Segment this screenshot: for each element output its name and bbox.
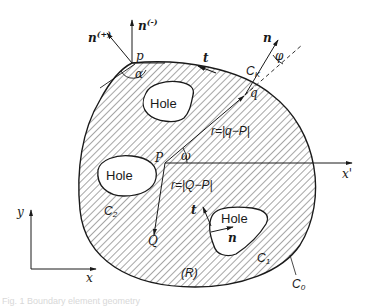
hole-label-c2: Hole: [106, 168, 133, 183]
label-t-top: t: [203, 51, 209, 65]
hole-label-ck: Hole: [150, 96, 177, 111]
label-x-prime: x': [342, 167, 352, 181]
label-c0: C0: [292, 277, 306, 292]
hole-label-c1: Hole: [221, 211, 248, 226]
label-q: q: [250, 86, 258, 100]
label-omega: ω: [181, 149, 191, 163]
label-n-hole: n: [228, 231, 237, 245]
label-n-minus: n(-): [138, 17, 158, 33]
c0-leader: [290, 255, 296, 275]
label-r-Q: r=|Q−P|: [171, 178, 213, 192]
label-phi: φ: [275, 49, 284, 63]
label-ck: CK: [246, 64, 261, 79]
label-x-axis: x: [86, 271, 93, 285]
label-alpha: α: [135, 67, 143, 81]
label-n-q: n: [263, 31, 272, 45]
label-r-q: r=|q−P|: [211, 124, 250, 138]
label-y-axis: y: [16, 205, 24, 219]
label-region-r: (R): [181, 266, 198, 280]
figure-caption: Fig. 1 Boundary element geometry: [2, 296, 140, 306]
label-Q: Q: [148, 234, 158, 248]
label-P: P: [154, 151, 164, 165]
label-p: p: [136, 49, 144, 63]
label-t-hole: t: [191, 203, 197, 217]
label-n-plus: n(+): [88, 29, 111, 45]
